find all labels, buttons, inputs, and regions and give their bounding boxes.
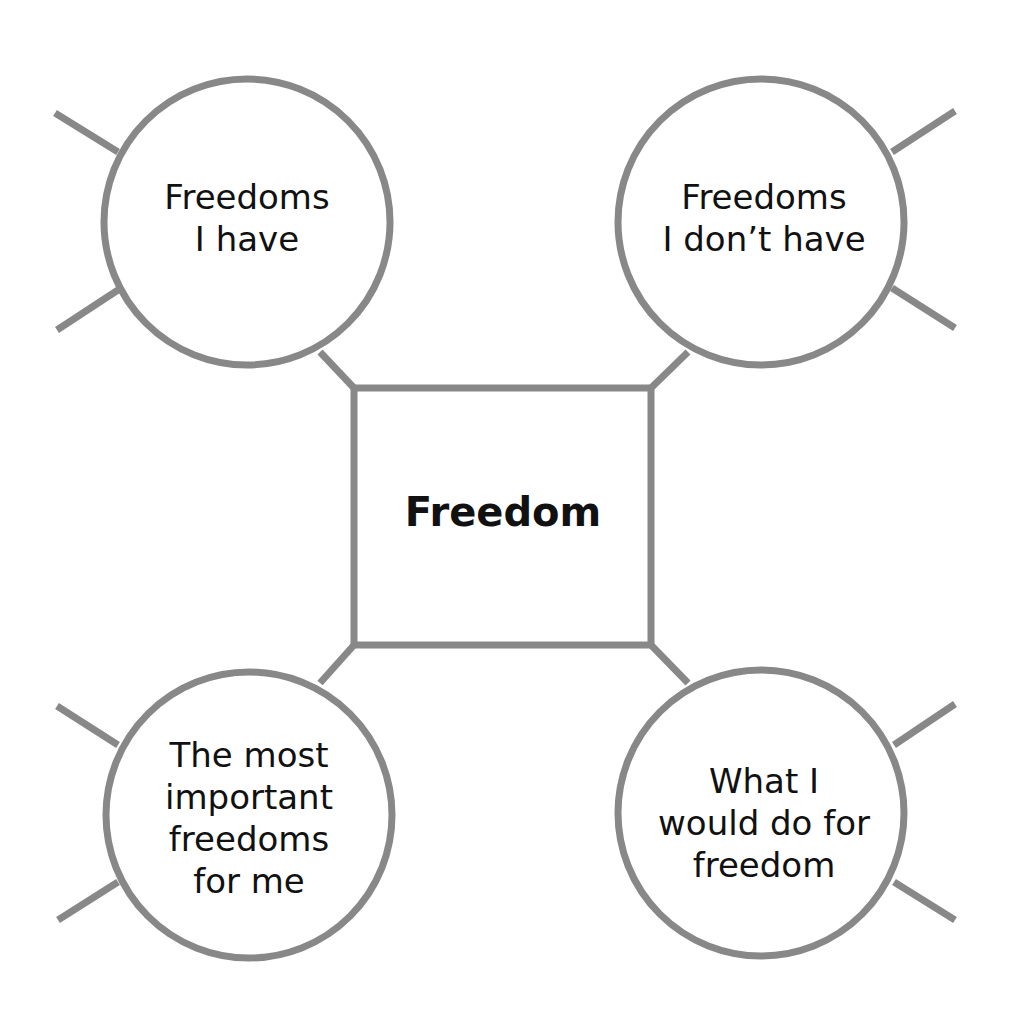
node-label-most-important-freedoms: The most important freedoms for me <box>165 734 333 902</box>
center-label: Freedom <box>405 491 602 533</box>
connector-line <box>320 645 354 683</box>
branch-line <box>894 882 955 920</box>
node-label-freedoms-i-have: Freedoms I have <box>164 176 329 260</box>
branch-line <box>892 111 955 152</box>
branch-line <box>892 288 955 328</box>
node-label-freedoms-i-dont-have: Freedoms I don’t have <box>662 176 865 260</box>
connector-line <box>651 352 688 388</box>
branch-line <box>55 113 118 152</box>
connector-line <box>320 352 354 388</box>
connector-line <box>651 645 688 683</box>
branch-line <box>57 706 118 745</box>
branch-line <box>894 704 955 745</box>
node-label-what-i-would-do: What I would do for freedom <box>658 760 870 886</box>
branch-line <box>58 882 118 920</box>
branch-line <box>57 290 118 330</box>
